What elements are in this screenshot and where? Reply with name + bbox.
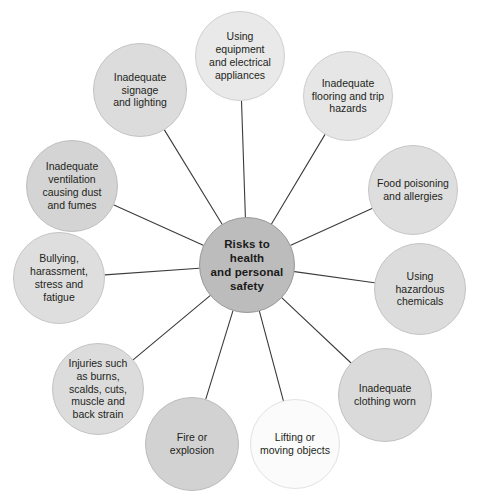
risk-node-inadequate-flooring-and-trip-hazards[interactable]: Inadequate flooring and trip hazards <box>303 51 393 141</box>
connector-injuries-such-as-burns-scalds-cuts-muscle-and-back-strain <box>133 296 210 360</box>
risk-node-inadequate-ventilation-causing-dust-and-fumes[interactable]: Inadequate ventilation causing dust and … <box>26 140 118 232</box>
connector-lifting-or-moving-objects <box>259 311 283 400</box>
risk-node-fire-or-explosion[interactable]: Fire or explosion <box>145 397 239 491</box>
connector-inadequate-signage-and-lighting <box>165 130 222 224</box>
risk-diagram: Using equipment and electrical appliance… <box>0 0 480 498</box>
connector-using-hazardous-chemicals <box>295 272 375 283</box>
risk-node-injuries-such-as-burns-scalds-cuts-muscle-and-back-strain[interactable]: Injuries such as burns, scalds, cuts, mu… <box>52 343 144 435</box>
risk-node-label: Using equipment and electrical appliance… <box>196 30 284 81</box>
risk-node-lifting-or-moving-objects[interactable]: Lifting or moving objects <box>250 399 340 489</box>
risk-node-label: Lifting or moving objects <box>254 431 336 457</box>
risk-node-label: Using hazardous chemicals <box>375 270 465 308</box>
connector-food-poisoning-and-allergies <box>291 209 372 246</box>
risk-node-label: Inadequate ventilation causing dust and … <box>37 160 108 211</box>
risk-node-label: Fire or explosion <box>164 431 220 457</box>
risk-node-label: Bullying, harassment, stress and fatigue <box>14 252 104 303</box>
risk-node-food-poisoning-and-allergies[interactable]: Food poisoning and allergies <box>368 145 458 235</box>
connector-inadequate-flooring-and-trip-hazards <box>272 135 325 224</box>
risk-node-label: Injuries such as burns, scalds, cuts, mu… <box>63 357 134 421</box>
connector-bullying-harassment-stress-and-fatigue <box>105 268 199 275</box>
hub-label: Risks to health and personal safety <box>200 237 294 293</box>
risk-node-label: Inadequate clothing worn <box>348 382 422 408</box>
risk-node-label: Inadequate signage and lighting <box>107 71 173 109</box>
risk-node-label: Food poisoning and allergies <box>371 177 455 203</box>
risk-node-using-equipment-and-electrical-appliances[interactable]: Using equipment and electrical appliance… <box>195 11 285 101</box>
risk-node-using-hazardous-chemicals[interactable]: Using hazardous chemicals <box>374 243 466 335</box>
risk-node-label: Inadequate flooring and trip hazards <box>306 77 390 115</box>
hub-node-hub[interactable]: Risks to health and personal safety <box>199 217 295 313</box>
risk-node-inadequate-signage-and-lighting[interactable]: Inadequate signage and lighting <box>93 43 187 137</box>
risk-node-bullying-harassment-stress-and-fatigue[interactable]: Bullying, harassment, stress and fatigue <box>13 232 105 324</box>
connector-inadequate-clothing-worn <box>282 298 351 363</box>
connector-fire-or-explosion <box>206 311 233 399</box>
connector-inadequate-ventilation-causing-dust-and-fumes <box>114 205 203 245</box>
risk-node-inadequate-clothing-worn[interactable]: Inadequate clothing worn <box>338 348 432 442</box>
connector-using-equipment-and-electrical-appliances <box>242 101 246 217</box>
